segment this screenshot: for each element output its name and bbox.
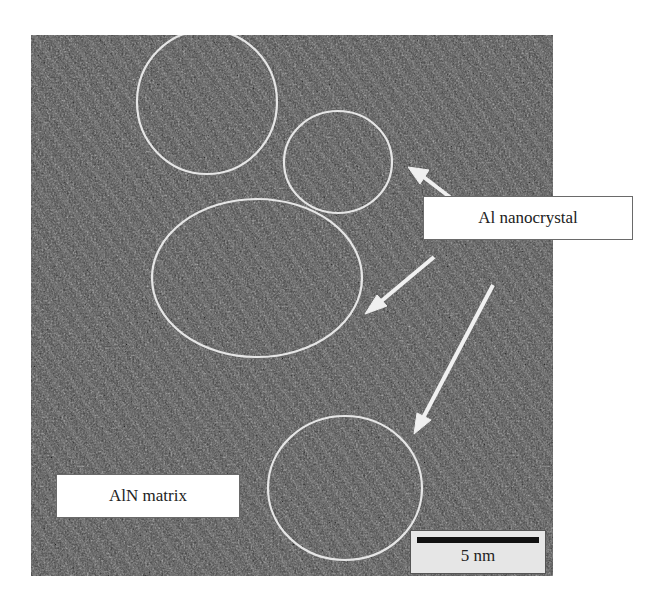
scale-bar: 5 nm [410,530,546,574]
scale-bar-line [417,537,539,543]
aln-matrix-label: AlN matrix [56,474,240,518]
al-nanocrystal-label: Al nanocrystal [423,196,633,240]
scale-bar-label: 5 nm [411,546,545,566]
